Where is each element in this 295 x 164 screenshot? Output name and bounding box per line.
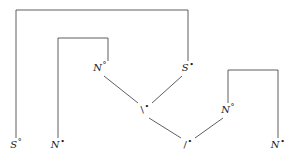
leaf-n-positive-right: N• — [271, 140, 285, 150]
leaf-slash-positive: /• — [184, 140, 193, 150]
node-n-negative-right-atom: N — [221, 104, 230, 115]
inner-axiom-link — [58, 38, 108, 138]
edge-n-neg-right-to-slash — [195, 118, 223, 138]
leaf-n-positive-right-atom: N — [271, 139, 280, 150]
leaf-n-positive-left: N• — [51, 140, 65, 150]
node-s-positive-atom: S — [182, 62, 189, 73]
leaf-slash-positive-polarity: • — [188, 137, 193, 146]
node-s-positive-polarity: • — [189, 60, 194, 69]
node-s-positive: S• — [182, 63, 194, 73]
leaf-n-positive-left-atom: N — [51, 139, 60, 150]
right-axiom-link — [228, 70, 278, 138]
node-n-negative-left: N° — [93, 63, 107, 73]
node-backslash-positive: \• — [141, 105, 150, 115]
node-n-negative-right: N° — [221, 105, 235, 115]
node-n-negative-right-polarity: ° — [231, 102, 235, 111]
proof-net-diagram: N° S• \• N° S° N• /• N• — [0, 0, 295, 164]
leaf-n-positive-left-polarity: • — [60, 137, 65, 146]
leaf-s-negative-atom: S — [10, 139, 17, 150]
outer-axiom-link — [16, 10, 188, 138]
edge-backslash-to-slash — [149, 118, 181, 138]
edge-s-pos-to-backslash — [152, 76, 182, 103]
leaf-s-negative: S° — [10, 140, 22, 150]
leaf-n-positive-right-polarity: • — [280, 137, 285, 146]
node-n-negative-left-atom: N — [93, 62, 102, 73]
proof-net-edges-layer — [0, 0, 295, 164]
node-n-negative-left-polarity: ° — [103, 60, 107, 69]
node-backslash-positive-polarity: • — [145, 102, 150, 111]
leaf-s-negative-polarity: ° — [18, 137, 22, 146]
edge-n-neg-left-to-backslash — [104, 76, 138, 103]
